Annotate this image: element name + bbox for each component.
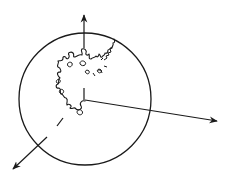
polymer-chain-loops — [56, 61, 101, 115]
y-axis — [13, 118, 63, 169]
polymer-chain-tail — [93, 48, 112, 76]
sphere-polymer-diagram — [0, 0, 234, 183]
polymer-chain — [56, 39, 114, 110]
diagram-canvas — [0, 0, 234, 183]
